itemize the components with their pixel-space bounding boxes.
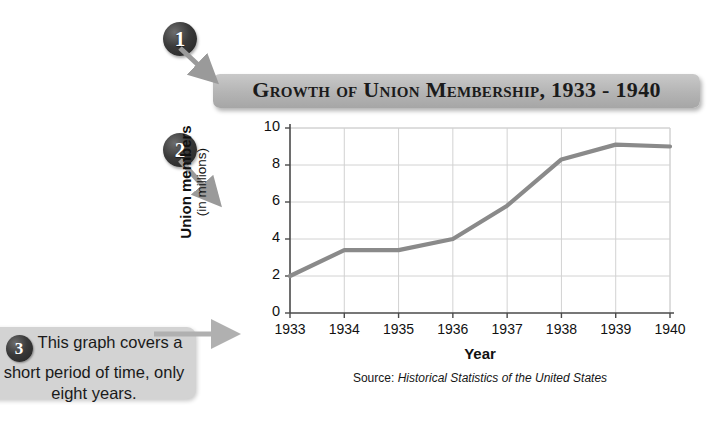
x-tick-label: 1933	[263, 321, 317, 337]
x-tick-label: 1938	[534, 321, 588, 337]
axis-lines	[290, 124, 674, 313]
x-axis-title: Year	[290, 345, 670, 362]
source-title: Historical Statistics of the United Stat…	[398, 371, 607, 385]
data-series-line	[290, 145, 670, 276]
y-tick-label: 10	[254, 118, 280, 134]
arrow-marker-3-icon	[152, 326, 252, 356]
source-note: Source: Historical Statistics of the Uni…	[290, 371, 670, 385]
y-tick-label: 8	[254, 155, 280, 171]
x-tick-label: 1936	[426, 321, 480, 337]
source-prefix: Source:	[353, 371, 394, 385]
x-tick-label: 1940	[643, 321, 697, 337]
callout-marker-3: 3	[6, 335, 33, 362]
y-tick-label: 0	[254, 303, 280, 319]
x-tick-label: 1937	[480, 321, 534, 337]
x-tick-label: 1935	[372, 321, 426, 337]
x-tick-label: 1934	[317, 321, 371, 337]
y-tick-label: 4	[254, 229, 280, 245]
y-tick-label: 2	[254, 266, 280, 282]
y-tick-label: 6	[254, 192, 280, 208]
x-tick-label: 1939	[589, 321, 643, 337]
